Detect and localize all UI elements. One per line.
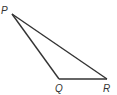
edge-rp [12, 14, 107, 79]
vertex-label-q: Q [55, 83, 63, 94]
triangle-pqr-diagram: P Q R [0, 0, 117, 95]
edge-pq [12, 14, 59, 79]
vertex-label-p: P [1, 5, 8, 16]
vertex-label-r: R [103, 83, 110, 94]
